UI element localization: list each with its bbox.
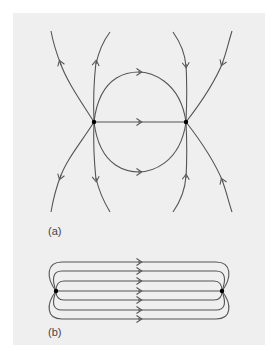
field-line-lower-arc [94, 122, 140, 172]
charge-left [92, 120, 96, 124]
panel-b-label: (b) [48, 326, 61, 338]
field-line-left-outer-down [60, 122, 94, 178]
charge-left [54, 289, 58, 293]
field-line-left-outer-up [60, 62, 94, 122]
field-line-diagram [0, 0, 276, 358]
field-line-right-inner-down [173, 176, 186, 212]
field-line-right-outer-down [222, 180, 232, 212]
panel-b [49, 262, 229, 319]
panel-a-label: (a) [48, 225, 61, 237]
charge-right [220, 289, 224, 293]
field-line-right-inner-up [173, 32, 186, 66]
charge-right [184, 120, 188, 124]
panel-a [51, 31, 232, 212]
field-line-upper-arc [94, 72, 140, 122]
field-line-right-outer-up [222, 31, 232, 64]
